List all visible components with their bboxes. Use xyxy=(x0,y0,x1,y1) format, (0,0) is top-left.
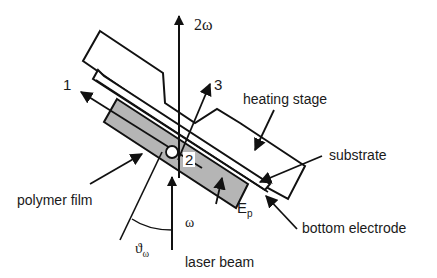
label-polymer-film: polymer film xyxy=(17,193,92,207)
label-theta-omega: ϑω xyxy=(135,241,149,259)
focus-point xyxy=(166,146,178,158)
e-subscript: p xyxy=(247,208,253,219)
sample-geometry-diagram: 2ω 1 3 2 heating stage substrate polymer… xyxy=(0,0,437,278)
label-laser-beam: laser beam xyxy=(185,255,254,269)
label-poling-field: Ep xyxy=(237,200,253,219)
surface-normal-line xyxy=(120,152,162,240)
e-symbol: E xyxy=(237,199,247,216)
label-omega: ω xyxy=(185,216,194,230)
label-2omega: 2ω xyxy=(194,17,213,33)
label-substrate: substrate xyxy=(329,148,387,162)
diagram-drawing xyxy=(0,0,437,278)
label-axis-3: 3 xyxy=(214,77,222,92)
label-axis-2: 2 xyxy=(183,152,195,167)
polymer-film-leader xyxy=(90,154,142,184)
bottom-electrode-leader xyxy=(266,196,297,229)
label-axis-1: 1 xyxy=(63,77,71,92)
label-heating-stage: heating stage xyxy=(243,92,327,106)
label-bottom-electrode: bottom electrode xyxy=(302,221,406,235)
incidence-angle-arc xyxy=(132,219,172,230)
theta-subscript: ω xyxy=(142,248,149,259)
